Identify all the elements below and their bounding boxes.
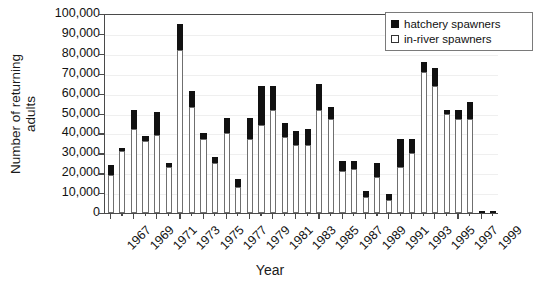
x-tick-mark	[145, 213, 146, 216]
bar-segment-hatchery	[247, 118, 253, 140]
x-axis-line	[104, 213, 498, 214]
bar-segment-hatchery	[397, 139, 403, 167]
bar-segment-in-river	[235, 187, 241, 213]
y-tick-label: 90,000	[44, 26, 100, 40]
bar-1967	[108, 14, 114, 213]
legend-item-hatchery: hatchery spawners	[391, 17, 528, 31]
bar-segment-hatchery	[154, 112, 160, 136]
x-tick-label: 1977	[240, 223, 270, 253]
bar-segment-hatchery	[293, 131, 299, 145]
bar-segment-in-river	[212, 163, 218, 213]
x-tick-mark	[284, 213, 285, 216]
x-tick-mark	[191, 213, 192, 216]
bar-segment-hatchery	[119, 148, 125, 151]
x-tick-mark	[110, 213, 111, 219]
legend-label-inriver: in-river spawners	[404, 32, 492, 46]
bar-segment-in-river	[224, 133, 230, 213]
x-tick-mark	[121, 213, 122, 216]
x-tick-mark	[365, 213, 366, 219]
x-tick-mark	[249, 213, 250, 219]
x-tick-mark	[214, 213, 215, 216]
bar-segment-in-river	[142, 141, 148, 213]
open-square-icon	[391, 35, 399, 43]
x-tick-label: 1985	[333, 223, 363, 253]
bar-segment-hatchery	[386, 194, 392, 200]
bar-segment-in-river	[177, 50, 183, 213]
bar-1975	[200, 14, 206, 213]
bar-segment-in-river	[247, 139, 253, 213]
bar-segment-hatchery	[432, 68, 438, 86]
x-tick-label: 1981	[286, 223, 316, 253]
y-tick-label: 60,000	[44, 86, 100, 100]
x-tick-mark	[411, 213, 412, 219]
bar-1968	[119, 14, 125, 213]
x-tick-label: 1975	[217, 223, 247, 253]
x-tick-label: 1973	[193, 223, 223, 253]
legend-item-inriver: in-river spawners	[391, 32, 528, 46]
chart-figure: Number of returning adults 100,00090,000…	[0, 0, 540, 289]
x-tick-label: 1971	[170, 223, 200, 253]
x-tick-mark	[342, 213, 343, 219]
bar-1984	[305, 14, 311, 213]
bar-1969	[131, 14, 137, 213]
bar-segment-hatchery	[374, 163, 380, 177]
bar-1986	[328, 14, 334, 213]
bar-segment-hatchery	[189, 91, 195, 107]
bar-segment-hatchery	[305, 129, 311, 145]
x-tick-mark	[330, 213, 331, 216]
bar-segment-in-river	[432, 86, 438, 213]
x-tick-label: 1999	[495, 223, 525, 253]
y-tick-label: 100,000	[44, 6, 100, 20]
x-tick-label: 1991	[402, 223, 432, 253]
bar-1974	[189, 14, 195, 213]
x-tick-label: 1983	[309, 223, 339, 253]
x-tick-mark	[400, 213, 401, 216]
bar-1976	[212, 14, 218, 213]
x-tick-mark	[446, 213, 447, 216]
bar-segment-hatchery	[258, 86, 264, 126]
x-tick-label: 1979	[263, 223, 293, 253]
bar-segment-hatchery	[351, 161, 357, 169]
x-tick-mark	[260, 213, 261, 216]
bar-segment-in-river	[374, 177, 380, 213]
bar-segment-in-river	[119, 151, 125, 213]
bar-1990	[374, 14, 380, 213]
bar-segment-hatchery	[455, 110, 461, 120]
x-tick-mark	[179, 213, 180, 219]
bar-segment-in-river	[409, 153, 415, 213]
bar-1981	[270, 14, 276, 213]
bar-segment-hatchery	[235, 179, 241, 187]
bar-1978	[235, 14, 241, 213]
y-tick-label: 30,000	[44, 145, 100, 159]
bar-segment-hatchery	[282, 123, 288, 137]
bar-segment-in-river	[444, 114, 450, 214]
bar-segment-in-river	[339, 171, 345, 213]
y-tick-label: 50,000	[44, 106, 100, 120]
x-tick-label: 1969	[147, 223, 177, 253]
x-tick-label: 1987	[356, 223, 386, 253]
x-tick-mark	[226, 213, 227, 219]
bar-1987	[339, 14, 345, 213]
y-axis-title-line2: adults	[23, 54, 38, 174]
y-tick-label: 80,000	[44, 46, 100, 60]
bar-1977	[224, 14, 230, 213]
y-tick-label: 40,000	[44, 125, 100, 139]
y-tick-label: 20,000	[44, 165, 100, 179]
x-tick-label: 1997	[472, 223, 502, 253]
bar-segment-in-river	[131, 129, 137, 213]
x-tick-mark	[156, 213, 157, 219]
y-axis-title-line1: Number of returning	[8, 54, 23, 174]
bar-segment-in-river	[305, 145, 311, 213]
bar-segment-in-river	[421, 72, 427, 213]
filled-square-icon	[391, 20, 399, 28]
x-tick-mark	[388, 213, 389, 219]
y-axis-title: Number of returning adults	[0, 0, 46, 228]
bar-segment-hatchery	[166, 163, 172, 167]
x-tick-mark	[423, 213, 424, 216]
legend-label-hatchery: hatchery spawners	[404, 17, 501, 31]
x-tick-label: 1989	[379, 223, 409, 253]
bar-segment-hatchery	[328, 107, 334, 120]
bar-segment-hatchery	[270, 86, 276, 110]
bar-segment-hatchery	[224, 118, 230, 134]
x-tick-mark	[469, 213, 470, 216]
